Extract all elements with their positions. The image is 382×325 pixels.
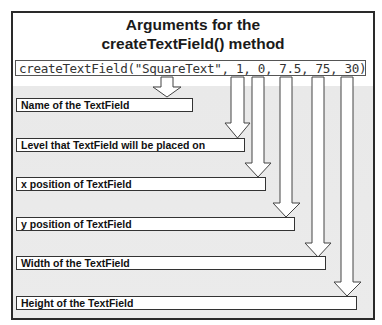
label-x-position: x position of TextField	[16, 177, 266, 191]
arrow-level-icon	[225, 77, 250, 138]
label-width: Width of the TextField	[16, 256, 326, 270]
label-level: Level that TextField will be placed on	[16, 138, 245, 152]
arrows-layer	[0, 0, 382, 325]
label-y-position: y position of TextField	[16, 217, 295, 231]
arrow-x-icon	[245, 77, 271, 177]
label-height: Height of the TextField	[16, 296, 357, 310]
arrow-width-icon	[305, 77, 331, 257]
arrow-name-icon	[153, 77, 181, 97]
arrow-y-icon	[273, 77, 300, 217]
label-name: Name of the TextField	[16, 98, 193, 112]
arrow-height-icon	[334, 77, 361, 296]
